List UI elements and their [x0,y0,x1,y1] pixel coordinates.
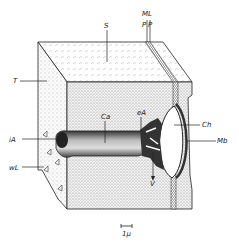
pit-canal [56,131,152,157]
label-ml: ML [142,10,152,18]
label-p1: P [142,21,147,29]
block-diagram: S ML P P T Ca eA iA wL Ch Mb V 1µ [0,0,239,245]
middle-lamella-lower [171,174,176,209]
inner-aperture [56,132,68,148]
label-ia: iA [9,136,16,144]
label-ch: Ch [202,121,211,129]
scale-bar [121,224,132,228]
label-wl: wL [9,164,19,172]
label-t: T [13,77,18,85]
scale-bar-label: 1µ [122,230,131,238]
label-ca: Ca [101,113,110,121]
label-s: S [104,22,109,30]
label-p2: P [148,21,153,29]
label-mb: Mb [217,137,228,145]
label-ea: eA [137,109,146,117]
